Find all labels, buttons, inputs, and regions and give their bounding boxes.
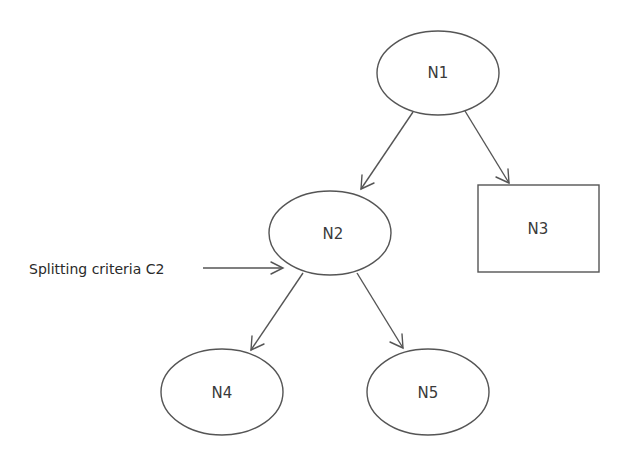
node-n1-label: N1 <box>428 64 449 82</box>
annotation-arrow <box>203 262 283 274</box>
decision-tree-diagram: N1 N2 N3 N4 N5 Splitting criteria C2 <box>0 0 628 454</box>
node-n5-label: N5 <box>418 384 439 402</box>
edge-n2-n5 <box>357 273 403 348</box>
node-n1: N1 <box>377 31 499 115</box>
node-n2-label: N2 <box>323 225 344 243</box>
edge-n1-n2 <box>361 112 413 189</box>
edge-n1-n3 <box>465 111 509 183</box>
edge-n2-n4 <box>251 273 303 350</box>
node-n3: N3 <box>478 185 599 272</box>
node-n3-label: N3 <box>528 220 549 238</box>
node-n2: N2 <box>269 191 391 275</box>
node-n4-label: N4 <box>212 384 233 402</box>
splitting-criteria-label: Splitting criteria C2 <box>29 261 164 277</box>
node-n5: N5 <box>367 349 489 435</box>
node-n4: N4 <box>161 349 283 435</box>
